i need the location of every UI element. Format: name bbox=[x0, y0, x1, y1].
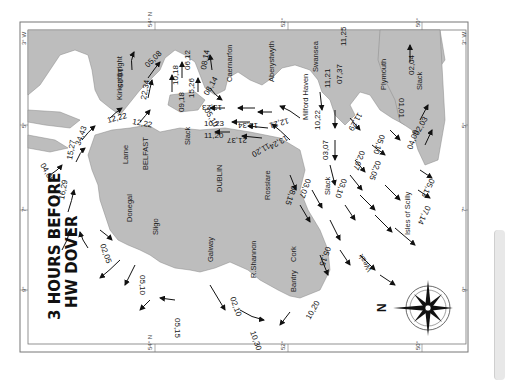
place-belfast: BELFAST bbox=[141, 137, 150, 170]
rate-label: 03,07 bbox=[321, 139, 330, 160]
rate-label: 10,22 bbox=[313, 109, 322, 130]
place-isles-of-scilly: Isles of Scilly bbox=[403, 191, 412, 235]
rate-label: 21,37 bbox=[226, 136, 247, 145]
rate-label: 09,18 bbox=[177, 91, 186, 112]
compass-north-label: N bbox=[375, 303, 389, 312]
rate-label: 01,01 bbox=[397, 98, 406, 119]
rate-label: 11,25 bbox=[339, 26, 348, 46]
rate-label: 16,29 bbox=[116, 68, 125, 89]
tick-top-50: 50° bbox=[415, 17, 421, 27]
rate-label: 02,04 bbox=[407, 54, 416, 75]
tick-left-9: 9° bbox=[21, 286, 27, 292]
tick-left-3w: 3° W bbox=[21, 32, 27, 45]
tick-right-3w: 3° W bbox=[461, 32, 467, 45]
tick-left-7: 7° bbox=[21, 206, 27, 212]
tidal-stream-map: 3 HOURS BEFORE HW DOVER Kirkcudbright Ca… bbox=[0, 0, 505, 386]
rate-label: 07,37 bbox=[335, 63, 344, 84]
place-sligo: Sligo bbox=[151, 218, 160, 235]
tick-bottom-54n: 54° N bbox=[147, 335, 153, 350]
slack-label-3: Slack bbox=[415, 71, 424, 90]
map-title-line2: HW DOVER bbox=[63, 215, 81, 308]
tick-top-52: 52° bbox=[280, 17, 286, 27]
rate-label: 05,15 bbox=[173, 318, 182, 339]
rate-label: 06,12 bbox=[183, 49, 192, 70]
tick-right-9: 9° bbox=[461, 286, 467, 292]
place-cork: Cork bbox=[289, 246, 298, 262]
place-dublin: DUBLIN bbox=[215, 164, 224, 192]
place-bantry: Bantry bbox=[289, 270, 298, 292]
tick-top-54n: 54° N bbox=[147, 12, 153, 27]
place-caernarfon: Caernarfon bbox=[225, 44, 234, 82]
page-scrollbar[interactable] bbox=[494, 230, 505, 380]
tick-bottom-52: 52° bbox=[280, 340, 286, 350]
rate-label: 05,10 bbox=[138, 275, 147, 296]
place-aberystwyth: Aberystwyth bbox=[267, 41, 276, 82]
place-swansea: Swansea bbox=[311, 40, 320, 72]
place-rosslare: Rosslare bbox=[263, 170, 272, 200]
rate-label: 10,23 bbox=[204, 119, 225, 128]
slack-label-2: Slack bbox=[323, 176, 332, 195]
slack-label-1: Slack bbox=[183, 126, 192, 145]
tick-bottom-50: 50° bbox=[415, 340, 421, 350]
place-larne: Larne bbox=[121, 145, 130, 164]
place-galway: Galway bbox=[206, 237, 215, 262]
rate-label: 15,26 bbox=[187, 77, 196, 98]
place-milford-haven: Milford Haven bbox=[301, 74, 310, 120]
tick-right-7: 7° bbox=[461, 206, 467, 212]
rate-label: 11,21 bbox=[323, 68, 332, 88]
place-plymouth: Plymouth bbox=[379, 59, 388, 90]
place-donegal: Donegal bbox=[125, 194, 134, 222]
place-r-shannon: R.Shannon bbox=[249, 240, 258, 278]
